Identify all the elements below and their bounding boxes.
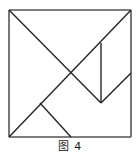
tangram-figure: 图 4 [0,0,140,162]
tangram-diagram [0,0,140,162]
figure-caption: 图 4 [0,140,140,154]
